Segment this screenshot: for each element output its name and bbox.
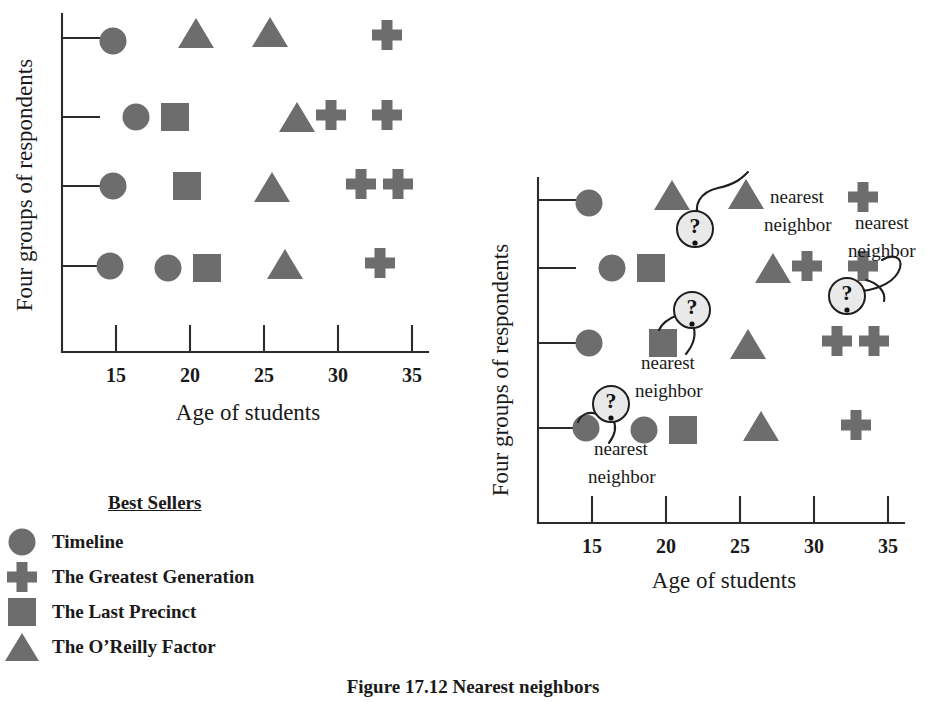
annotation-text-line2: neighbor — [588, 466, 656, 487]
annotation-nearest-neighbor-1: ? nearest neighbor — [677, 172, 832, 247]
marker-circle — [576, 190, 603, 217]
question-bubble-dot — [608, 415, 613, 420]
right-chart-x-axis-title: Age of students — [652, 568, 796, 593]
left-chart-x-tick-label: 25 — [254, 364, 274, 386]
legend-item-label: The O’Reilly Factor — [44, 636, 216, 658]
marker-circle — [123, 104, 150, 131]
right-chart-x-tick-label: 30 — [804, 535, 824, 557]
annotation-text-line1: nearest — [770, 186, 825, 207]
marker-square — [173, 172, 201, 200]
right-chart-x-tick-label: 20 — [656, 535, 676, 557]
right-chart-x-tick-label: 25 — [730, 535, 750, 557]
legend-item-oreilly-factor: The O’Reilly Factor — [0, 629, 340, 664]
marker-triangle — [654, 180, 690, 210]
legend-item-timeline: Timeline — [0, 524, 340, 559]
question-bubble-label: ? — [606, 388, 617, 413]
triangle-icon — [0, 630, 44, 664]
marker-cross — [316, 100, 346, 130]
marker-triangle — [178, 18, 214, 48]
marker-circle — [100, 28, 127, 55]
figure-caption: Figure 17.12 Nearest neighbors — [0, 676, 946, 698]
legend-item-greatest-generation: The Greatest Generation — [0, 559, 340, 594]
question-bubble-label: ? — [842, 280, 853, 305]
annotation-text-line2: neighbor — [848, 240, 916, 261]
right-chart-x-tick-label: 35 — [878, 535, 898, 557]
marker-square — [193, 254, 221, 282]
left-chart-x-tick-label: 20 — [180, 364, 200, 386]
legend-item-label: The Greatest Generation — [44, 566, 254, 588]
legend-item-label: Timeline — [44, 531, 123, 553]
marker-cross — [841, 410, 871, 440]
legend-title: Best Sellers — [0, 492, 340, 514]
marker-triangle — [279, 102, 315, 132]
left-chart-x-tick-label: 30 — [328, 364, 348, 386]
marker-triangle — [743, 411, 779, 441]
right-chart: 15 20 25 30 35 Age of students Four grou… — [488, 172, 916, 593]
marker-triangle — [254, 172, 290, 202]
marker-triangle — [730, 329, 766, 359]
marker-cross — [372, 100, 402, 130]
marker-cross — [365, 248, 395, 278]
annotation-text-line1: nearest — [594, 438, 649, 459]
annotation-text-line1: nearest — [855, 212, 910, 233]
cross-icon — [0, 560, 44, 594]
question-bubble-dot — [689, 321, 694, 326]
figure-root: 15 20 25 30 35 Age of students Four grou… — [0, 0, 946, 702]
left-chart-y-axis-title: Four groups of respondents — [12, 59, 37, 311]
marker-triangle — [267, 249, 303, 279]
annotation-text-line2: neighbor — [764, 214, 832, 235]
marker-cross — [372, 20, 402, 50]
question-bubble-dot — [844, 307, 849, 312]
marker-square — [637, 254, 665, 282]
right-chart-y-axis-title: Four groups of respondents — [488, 244, 513, 496]
left-chart: 15 20 25 30 35 Age of students Four grou… — [12, 14, 428, 425]
marker-triangle — [252, 17, 288, 47]
question-bubble-dot — [692, 240, 697, 245]
legend-item-label: The Last Precinct — [44, 601, 196, 623]
annotation-text-line1: nearest — [641, 352, 696, 373]
marker-square — [669, 416, 697, 444]
annotation-text-line2: neighbor — [635, 380, 703, 401]
legend-item-last-precinct: The Last Precinct — [0, 594, 340, 629]
marker-cross — [383, 169, 413, 199]
marker-circle — [155, 255, 182, 282]
marker-cross — [346, 169, 376, 199]
marker-triangle — [755, 253, 791, 283]
marker-cross — [848, 182, 878, 212]
marker-circle — [576, 330, 603, 357]
right-chart-x-tick-label: 15 — [582, 535, 602, 557]
marker-cross — [859, 326, 889, 356]
marker-cross — [792, 251, 822, 281]
left-chart-x-tick-label: 35 — [402, 364, 422, 386]
marker-circle — [97, 253, 124, 280]
marker-cross — [822, 326, 852, 356]
left-chart-x-tick-label: 15 — [106, 364, 126, 386]
marker-circle — [100, 173, 127, 200]
question-bubble-label: ? — [690, 213, 701, 238]
circle-icon — [0, 525, 44, 559]
left-chart-x-axis-title: Age of students — [176, 400, 320, 425]
question-bubble-label: ? — [687, 294, 698, 319]
legend: Best Sellers Timeline The Greatest Gener… — [0, 492, 340, 664]
marker-circle — [599, 255, 626, 282]
marker-square — [161, 103, 189, 131]
square-icon — [0, 595, 44, 629]
